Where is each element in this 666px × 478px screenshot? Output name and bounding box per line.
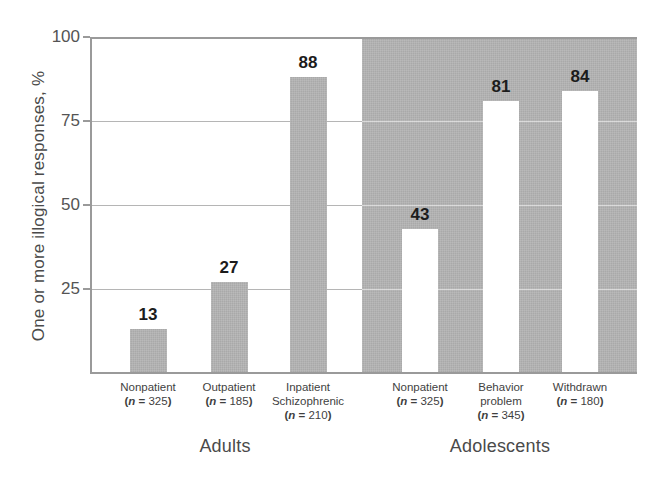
y-tick-label-50: 50 [40, 195, 80, 215]
y-tick-mark-100 [83, 36, 90, 38]
bar-chart-figure: One or more illogical responses, % 10075… [0, 0, 666, 478]
x-category-label-5: Withdrawn(n = 180) [520, 380, 640, 408]
bar-2[interactable] [290, 77, 327, 373]
bar-3[interactable] [402, 229, 438, 373]
x-category-label-2: InpatientSchizophrenic(n = 210) [248, 380, 368, 422]
bar-value-label-2: 88 [278, 53, 338, 73]
plot-frame-bottom [90, 372, 637, 374]
bar-value-label-1: 27 [199, 258, 259, 278]
bar-4[interactable] [483, 101, 519, 373]
bar-0[interactable] [130, 329, 167, 373]
y-tick-label-25: 25 [40, 279, 80, 299]
bar-value-label-4: 81 [471, 77, 531, 97]
y-tick-label-100: 100 [40, 27, 80, 47]
y-tick-mark-25 [83, 288, 90, 290]
bar-1[interactable] [211, 282, 248, 373]
x-category-name-line2-2: Schizophrenic [248, 394, 368, 408]
bar-value-label-5: 84 [550, 67, 610, 87]
y-tick-mark-75 [83, 120, 90, 122]
bar-value-label-0: 13 [118, 305, 178, 325]
plot-frame-top [90, 37, 637, 39]
bar-value-label-3: 43 [390, 205, 450, 225]
plot-frame-left [90, 37, 92, 373]
x-category-sample-size-5: (n = 180) [520, 394, 640, 408]
x-category-name-line1-5: Withdrawn [520, 380, 640, 394]
group-label-adolescents: Adolescents [400, 436, 600, 457]
bar-5[interactable] [562, 91, 598, 373]
y-tick-mark-50 [83, 204, 90, 206]
y-tick-label-75: 75 [40, 111, 80, 131]
x-category-sample-size-4: (n = 345) [441, 408, 561, 422]
x-category-sample-size-2: (n = 210) [248, 408, 368, 422]
group-label-adults: Adults [125, 436, 325, 457]
x-category-name-line1-2: Inpatient [248, 380, 368, 394]
